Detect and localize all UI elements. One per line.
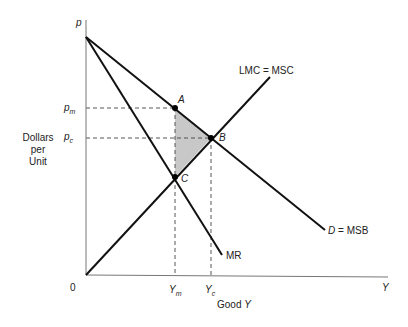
point-c — [172, 174, 178, 180]
ym-label: Ym — [169, 284, 182, 297]
point-a — [172, 105, 178, 111]
lmc-msc-curve — [86, 77, 270, 275]
x-axis — [86, 275, 388, 277]
yc-label: Yc — [205, 284, 216, 297]
ylabel-unit: Unit — [29, 156, 47, 167]
pc-label: pc — [63, 131, 74, 144]
label-a: A — [177, 94, 185, 105]
label-b: B — [219, 132, 226, 143]
economics-chart: p Dollars per Unit pm pc A B C LMC = MSC… — [0, 0, 408, 327]
deadweight-loss-area — [175, 108, 211, 177]
x-axis-end-label: Y — [382, 282, 390, 293]
origin-label: 0 — [70, 282, 76, 293]
mr-label: MR — [226, 250, 242, 261]
ylabel-per: per — [31, 144, 46, 155]
ylabel-dollars: Dollars — [22, 132, 53, 143]
demand-msb-label: D = MSB — [328, 225, 369, 236]
xlabel-good-y: Good Y — [217, 299, 252, 310]
lmc-msc-label: LMC = MSC — [239, 65, 294, 76]
pm-label: pm — [63, 102, 76, 115]
label-c: C — [181, 173, 189, 184]
price-axis-label: p — [75, 17, 82, 28]
point-b — [208, 135, 214, 141]
